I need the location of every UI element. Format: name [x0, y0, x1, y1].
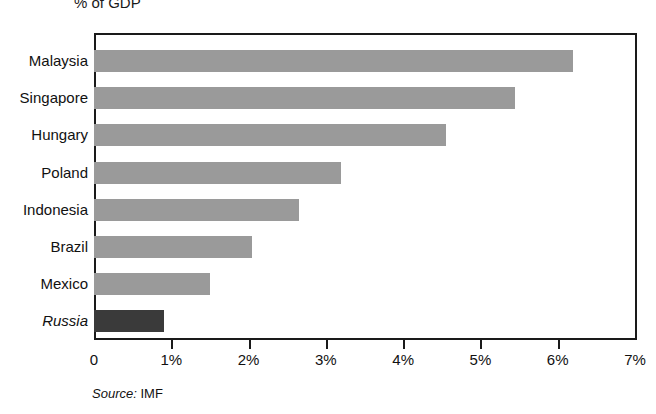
bar-malaysia	[94, 50, 573, 72]
tick-label-3%: 3%	[315, 351, 337, 368]
bar-indonesia	[94, 199, 299, 221]
tick-label-1%: 1%	[160, 351, 182, 368]
category-label-poland: Poland	[0, 162, 88, 184]
tick-label-7%: 7%	[624, 351, 646, 368]
tick-label-6%: 6%	[547, 351, 569, 368]
chart-title: % of GDP	[74, 0, 141, 11]
tick-mark-6%	[558, 340, 560, 349]
x-axis-tick-marks	[94, 340, 637, 350]
bar-fill	[94, 199, 299, 221]
category-label-indonesia: Indonesia	[0, 199, 88, 221]
bar-fill	[94, 124, 446, 146]
category-label-malaysia: Malaysia	[0, 50, 88, 72]
bar-brazil	[94, 236, 252, 258]
category-label-russia: Russia	[0, 310, 88, 332]
category-label-hungary: Hungary	[0, 124, 88, 146]
tick-label-5%: 5%	[470, 351, 492, 368]
category-label-singapore: Singapore	[0, 87, 88, 109]
x-axis-tick-labels: 01%2%3%4%5%6%7%	[0, 351, 656, 373]
tick-mark-1%	[171, 340, 173, 349]
bar-fill	[94, 273, 210, 295]
tick-label-2%: 2%	[238, 351, 260, 368]
bar-russia	[94, 310, 164, 332]
bar-poland	[94, 162, 341, 184]
bar-hungary	[94, 124, 446, 146]
category-label-brazil: Brazil	[0, 236, 88, 258]
bar-fill	[94, 236, 252, 258]
tick-label-0: 0	[90, 351, 98, 368]
chart-container: % of GDP MalaysiaSingaporeHungaryPolandI…	[0, 0, 656, 414]
tick-mark-4%	[403, 340, 405, 349]
category-axis-labels: MalaysiaSingaporeHungaryPolandIndonesiaB…	[0, 33, 88, 340]
bar-fill	[94, 162, 341, 184]
bar-fill	[94, 50, 573, 72]
tick-label-4%: 4%	[392, 351, 414, 368]
tick-mark-3%	[326, 340, 328, 349]
bar-fill	[94, 310, 164, 332]
tick-mark-2%	[249, 340, 251, 349]
bar-singapore	[94, 87, 515, 109]
bar-fill	[94, 87, 515, 109]
tick-mark-5%	[480, 340, 482, 349]
category-label-mexico: Mexico	[0, 273, 88, 295]
bars-layer	[94, 33, 637, 340]
source-value: IMF	[140, 386, 162, 401]
source-label: Source:	[92, 386, 137, 401]
source-note: Source: IMF	[92, 386, 163, 401]
bar-mexico	[94, 273, 210, 295]
